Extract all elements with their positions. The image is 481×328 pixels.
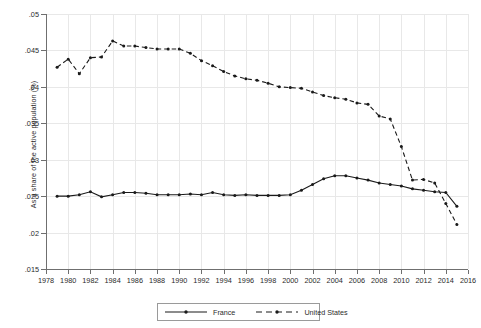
gridline-horizontal (46, 87, 468, 88)
y-tick-mark (41, 14, 46, 15)
x-tick-mark (446, 270, 447, 274)
legend-item-france[interactable]: France (158, 304, 235, 320)
y-axis-title: As a share of the active population (%) (29, 30, 38, 260)
gridline-vertical (201, 14, 202, 269)
x-tick-mark (113, 270, 114, 274)
y-tick-label: .04 (14, 83, 39, 92)
y-tick-label: .02 (14, 229, 39, 238)
gridline-vertical (68, 14, 69, 269)
gridline-vertical (135, 14, 136, 269)
gridline-vertical (424, 14, 425, 269)
y-tick-label: .03 (14, 156, 39, 165)
gridline-vertical (179, 14, 180, 269)
gridline-vertical (113, 14, 114, 269)
gridline-vertical (224, 14, 225, 269)
gridline-vertical (379, 14, 380, 269)
x-tick-mark (135, 270, 136, 274)
x-tick-mark (246, 270, 247, 274)
x-tick-mark (379, 270, 380, 274)
y-tick-mark (41, 160, 46, 161)
legend-label-united-states: United States (304, 308, 347, 317)
y-tick-label: .015 (14, 265, 39, 274)
gridline-vertical (335, 14, 336, 269)
gridline-horizontal (46, 123, 468, 124)
x-tick-mark (335, 270, 336, 274)
x-tick-mark (179, 270, 180, 274)
gridline-vertical (313, 14, 314, 269)
gridline-vertical (401, 14, 402, 269)
y-tick-label: .035 (14, 119, 39, 128)
gridline-vertical (268, 14, 269, 269)
y-tick-mark (41, 50, 46, 51)
gridline-vertical (357, 14, 358, 269)
x-tick-mark (468, 270, 469, 274)
gridline-vertical (290, 14, 291, 269)
gridline-horizontal (46, 50, 468, 51)
plot-area (46, 14, 468, 269)
x-tick-mark (268, 270, 269, 274)
y-tick-mark (41, 233, 46, 234)
gridline-vertical (246, 14, 247, 269)
x-tick-mark (401, 270, 402, 274)
x-tick-mark (313, 270, 314, 274)
y-tick-label: .05 (14, 10, 39, 19)
y-tick-label: .025 (14, 192, 39, 201)
legend-item-united-states[interactable]: United States (249, 304, 347, 320)
x-tick-mark (90, 270, 91, 274)
x-tick-mark (201, 270, 202, 274)
x-tick-mark (290, 270, 291, 274)
chart-legend: France United States (157, 303, 320, 321)
gridline-vertical (90, 14, 91, 269)
y-tick-mark (41, 196, 46, 197)
y-axis-line (46, 14, 47, 269)
gridline-horizontal (46, 14, 468, 15)
x-tick-mark (68, 270, 69, 274)
x-tick-mark (424, 270, 425, 274)
x-tick-mark (46, 270, 47, 274)
x-axis-line (46, 269, 468, 270)
gridline-horizontal (46, 196, 468, 197)
gridline-vertical (468, 14, 469, 269)
x-tick-mark (357, 270, 358, 274)
y-tick-label: .045 (14, 46, 39, 55)
y-tick-mark (41, 87, 46, 88)
gridline-horizontal (46, 160, 468, 161)
x-tick-mark (157, 270, 158, 274)
legend-label-france: France (213, 308, 235, 317)
legend-swatch-dashed-line (255, 307, 299, 317)
y-tick-mark (41, 123, 46, 124)
x-tick-mark (224, 270, 225, 274)
legend-swatch-solid-line (164, 307, 208, 317)
gridline-vertical (446, 14, 447, 269)
gridline-horizontal (46, 233, 468, 234)
x-tick-label: 2016 (453, 276, 481, 285)
gridline-vertical (157, 14, 158, 269)
